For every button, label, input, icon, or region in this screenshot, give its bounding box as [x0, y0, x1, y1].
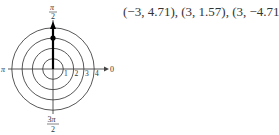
polar-axis-arrow-icon — [104, 67, 109, 72]
plotted-point — [50, 36, 55, 41]
svg-text:2: 2 — [51, 12, 55, 21]
svg-text:π: π — [1, 65, 6, 74]
svg-text:2: 2 — [51, 125, 55, 134]
segment-arrow-icon — [50, 21, 56, 29]
svg-text:1: 1 — [64, 69, 68, 78]
svg-text:4: 4 — [95, 69, 99, 78]
svg-text:π: π — [50, 3, 55, 12]
svg-text:3: 3 — [85, 69, 89, 78]
svg-text:3π: 3π — [48, 115, 57, 124]
svg-text:2: 2 — [75, 69, 79, 78]
svg-text:0: 0 — [110, 65, 114, 74]
point-coordinates: (−3, 4.71), (3, 1.57), (3, −4.71) — [123, 4, 279, 20]
polar-plot: 1 2 3 4 π 2 π 0 3π 2 — [0, 0, 130, 135]
